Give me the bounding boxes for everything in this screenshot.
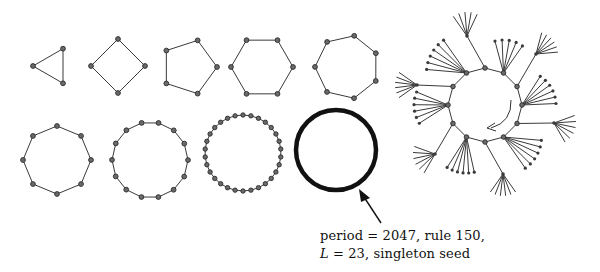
cycle-5 xyxy=(164,38,219,96)
cycle-2047-thick-ring xyxy=(296,110,376,190)
cycle-graphs xyxy=(21,33,379,199)
rotation-arrow-icon xyxy=(487,100,511,131)
caption-line-2-text: = 23, singleton seed xyxy=(329,246,470,261)
caption-line-2: L = 23, singleton seed xyxy=(320,246,470,261)
pointer-arrow-icon xyxy=(359,189,381,223)
cycle-30 xyxy=(203,113,283,193)
cycle-4 xyxy=(89,37,148,96)
basin-of-attraction-tree xyxy=(395,12,576,196)
cycle-14 xyxy=(110,121,191,200)
cycle-7 xyxy=(313,33,379,100)
attractor-figure xyxy=(0,0,600,272)
cycle-6 xyxy=(229,38,296,96)
cycle-8 xyxy=(21,124,94,197)
caption-variable: L xyxy=(320,246,329,261)
cycle-3 xyxy=(31,46,66,85)
caption-line-1: period = 2047, rule 150, xyxy=(320,228,485,243)
